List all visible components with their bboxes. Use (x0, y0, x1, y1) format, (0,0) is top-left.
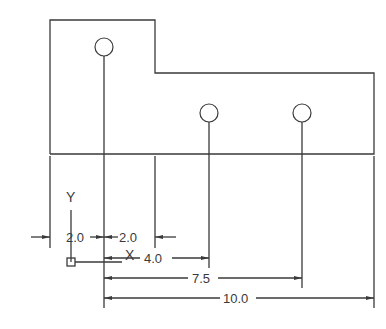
svg-text:7.5: 7.5 (192, 271, 210, 286)
dim-7-5: 7.5 (104, 271, 302, 286)
ucs-icon: Y X (66, 189, 135, 266)
dim-left-2: 2.0 (31, 230, 104, 245)
dim-10: 10.0 (104, 291, 374, 306)
y-axis-label: Y (66, 189, 76, 205)
svg-text:10.0: 10.0 (223, 291, 248, 306)
cad-drawing: Y X 2.0 2.0 4.0 7.5 10.0 (0, 0, 386, 329)
hole-1 (95, 38, 113, 308)
hole-3 (293, 104, 311, 288)
extension-lines (50, 156, 374, 308)
dim-right-2: 2.0 (104, 230, 176, 245)
svg-text:2.0: 2.0 (66, 230, 84, 245)
hole-2 (200, 104, 218, 268)
dim-4: 4.0 (104, 251, 209, 266)
x-axis-label: X (125, 247, 135, 263)
svg-text:2.0: 2.0 (119, 230, 137, 245)
svg-text:4.0: 4.0 (144, 251, 162, 266)
